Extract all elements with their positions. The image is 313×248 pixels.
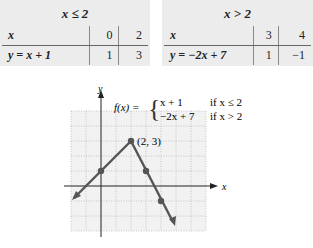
vertex-label: (2, 3) [137, 135, 161, 148]
svg-text:if x > 2: if x > 2 [210, 110, 242, 122]
svg-text:if x ≤ 2: if x ≤ 2 [210, 96, 242, 108]
piecewise-graph: x y f(x) = { x + 1 −2x + 7 if x ≤ 2 if x… [0, 0, 313, 248]
svg-text:f(x) =: f(x) = [114, 101, 139, 114]
x-axis-label: x [221, 181, 227, 192]
svg-text:{: { [148, 94, 160, 123]
svg-text:x + 1: x + 1 [160, 96, 183, 108]
x-axis-arrow-icon [210, 183, 218, 189]
y-axis-label: y [97, 83, 103, 94]
svg-text:−2x + 7: −2x + 7 [160, 110, 195, 122]
